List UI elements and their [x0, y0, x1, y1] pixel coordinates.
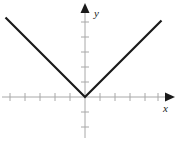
absolute-value-curve: [6, 18, 162, 98]
x-axis-label: x: [162, 102, 168, 114]
absolute-value-graph-figure: y x: [0, 0, 176, 142]
y-axis-label: y: [93, 7, 99, 19]
y-axis-arrow-icon: [81, 3, 90, 13]
x-axis-arrow-icon: [165, 93, 175, 102]
plot-canvas: y x: [0, 0, 176, 142]
